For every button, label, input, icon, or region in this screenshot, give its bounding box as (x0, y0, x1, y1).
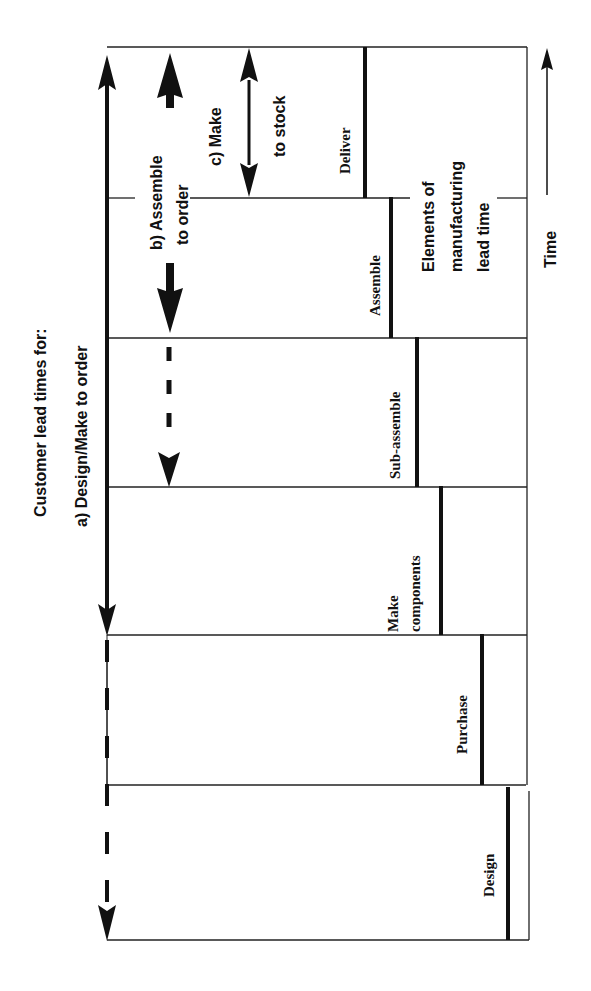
stage-label-subassemble: Sub-assemble (387, 391, 403, 479)
arrow-up-head-icon (157, 53, 183, 108)
label-c: c) Make (207, 107, 224, 166)
arrow-down-head-icon (158, 452, 180, 487)
arrow-down-head-icon (98, 905, 116, 941)
stage-label-purchase: Purchase (454, 695, 470, 754)
stage-grid (107, 47, 529, 940)
stage-make-text: Make (385, 595, 401, 632)
arrow-down-head-icon (157, 263, 183, 333)
stage-components-text: components (407, 555, 423, 632)
elements-label: Elements of manufacturing lead time (420, 161, 492, 272)
title-customer-lead-times: Customer lead times for: (32, 329, 49, 517)
stage-design-text: Design (481, 853, 497, 897)
stage-purchase-text: Purchase (454, 695, 470, 754)
arrow-up-head-icon (541, 48, 553, 70)
stage-deliver-text: Deliver (337, 127, 353, 174)
manufacturing-lead-time-diagram: Customer lead times for: a) Design/Make … (0, 0, 591, 991)
elements-line3: lead time (475, 203, 492, 272)
stage-label-assemble: Assemble (367, 255, 383, 316)
label-b: b) Assemble to order (148, 155, 191, 250)
time-arrow (541, 48, 553, 195)
stage-assemble-text: Assemble (367, 255, 383, 316)
stage-subassemble-text: Sub-assemble (387, 391, 403, 479)
time-label: Time (542, 231, 559, 268)
label-design-make-to-order: a) Design/Make to order (73, 346, 90, 527)
stage-label-design: Design (481, 853, 497, 897)
stage-bars (365, 47, 508, 940)
elements-line2: manufacturing (448, 161, 465, 272)
arrow-up-head-icon (240, 48, 258, 82)
arrow-down-head-icon (240, 163, 258, 197)
arrow-design-make-to-order (98, 55, 116, 941)
label-make-line1: c) Make (207, 107, 224, 166)
arrow-make-to-stock (240, 48, 258, 197)
arrow-assemble-to-order (157, 53, 183, 487)
time-text: Time (542, 231, 559, 268)
label-c2: to stock (271, 96, 288, 157)
label-a: a) Design/Make to order (73, 346, 90, 527)
label-make-line2: to stock (271, 96, 288, 157)
stage-label-make-components: Make components (385, 555, 423, 632)
title-text: Customer lead times for: (32, 329, 49, 517)
label-assemble-line2: to order (174, 185, 191, 245)
label-assemble-line1: b) Assemble (148, 155, 165, 250)
stage-label-deliver: Deliver (337, 127, 353, 174)
elements-line1: Elements of (420, 181, 437, 272)
